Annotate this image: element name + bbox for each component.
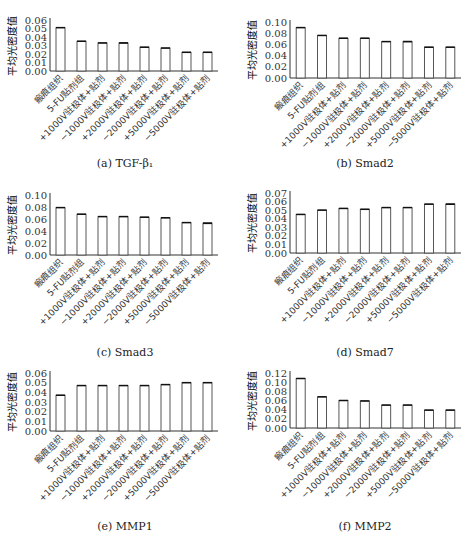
error-bar [424,203,433,205]
bar [424,410,433,428]
chart-tgf-beta1: 平均光密度值0.000.010.020.030.040.050.06瘢痕组织5-… [0,0,233,175]
bar [98,43,107,71]
error-bar [98,385,107,387]
bar [119,43,128,71]
y-tick-label: 0.06 [25,368,47,379]
error-bar [56,207,65,209]
error-bar [424,46,433,48]
error-bar [446,46,455,48]
error-bar [203,222,212,224]
bar [119,386,128,431]
error-bar [318,209,327,211]
chart-smad3: 平均光密度值0.000.020.040.060.080.10瘢痕组织5-FU贴剂… [0,180,233,355]
bar [446,204,455,253]
bar [182,52,191,71]
bar [140,47,149,71]
error-bar [98,42,107,44]
bar [318,35,327,78]
bar [382,405,391,428]
bar [182,383,191,431]
error-bar [140,216,149,218]
y-tick-label: 0.08 [265,28,287,39]
error-bar [360,209,369,211]
y-axis-label: 平均光密度值 [6,372,18,432]
y-tick-label: 0.04 [25,387,47,398]
error-bar [403,41,412,43]
bar [424,47,433,78]
bar [446,47,455,78]
y-tick-label: 0.05 [25,377,47,388]
caption: (b) Smad2 [336,157,394,170]
bar [56,395,65,431]
error-bar [119,216,128,218]
error-bar [77,41,86,43]
chart-mmp1: 平均光密度值0.000.010.020.030.040.050.06瘢痕组织5-… [0,358,233,538]
bar [56,28,65,71]
y-tick-label: 0.06 [25,15,47,26]
bar [403,405,412,428]
bar [318,210,327,253]
bar [203,383,212,431]
y-tick-label: 0.10 [265,17,287,28]
y-tick-label: 0.06 [25,214,47,225]
error-bar [182,222,191,224]
error-bar [296,378,305,380]
error-bar [382,207,391,209]
y-tick-label: 0.06 [265,39,287,50]
bar [182,223,191,255]
error-bar [403,207,412,209]
error-bar [360,37,369,39]
caption: (f) MMP2 [338,520,391,533]
y-axis-label: 平均光密度值 [246,193,258,253]
bar [161,218,170,255]
error-bar [203,382,212,384]
error-bar [77,213,86,215]
error-bar [182,52,191,54]
chart-smad7: 平均光密度值0.000.010.020.030.040.050.060.07瘢痕… [233,180,467,355]
bar [382,208,391,253]
chart-svg: 平均光密度值0.000.010.020.030.040.050.06瘢痕组织5-… [0,358,233,518]
y-tick-label: 0.00 [25,426,47,437]
y-axis-label: 平均光密度值 [246,20,258,80]
bar [203,52,212,71]
bar [98,217,107,255]
chart-svg: 平均光密度值0.000.020.040.060.080.100.12瘢痕组织5-… [233,358,467,518]
bar [161,48,170,71]
error-bar [318,396,327,398]
bar [360,209,369,253]
bar [403,42,412,78]
bar [296,379,305,429]
bar [339,401,348,429]
bar [140,386,149,431]
bar [296,28,305,78]
error-bar [98,216,107,218]
y-tick-label: 0.04 [25,226,47,237]
error-bar [182,382,191,384]
y-axis-label: 平均光密度值 [246,371,258,431]
error-bar [382,41,391,43]
y-axis-label: 平均光密度值 [6,195,18,255]
error-bar [382,404,391,406]
bar [424,204,433,253]
error-bar [296,214,305,216]
bar [77,41,86,71]
bar [403,208,412,253]
chart-svg: 平均光密度值0.000.020.040.060.080.10瘢痕组织5-FU贴剂… [233,0,467,160]
bar [203,223,212,255]
error-bar [424,409,433,411]
error-bar [296,27,305,29]
y-tick-label: 0.03 [25,397,47,408]
y-tick-label: 0.02 [25,238,47,249]
error-bar [161,47,170,49]
chart-svg: 平均光密度值0.000.010.020.030.040.050.060.07瘢痕… [233,180,467,340]
error-bar [119,42,128,44]
y-tick-label: 0.10 [25,190,47,201]
caption: (a) TGF-β₁ [97,157,153,170]
y-tick-label: 0.04 [265,50,287,61]
error-bar [403,404,412,406]
error-bar [161,384,170,386]
error-bar [56,394,65,396]
bar [161,385,170,431]
caption: (e) MMP1 [97,520,153,533]
bar [140,217,149,255]
